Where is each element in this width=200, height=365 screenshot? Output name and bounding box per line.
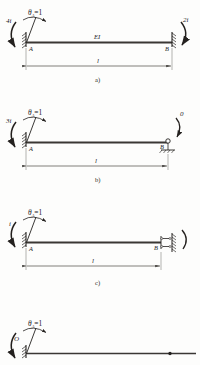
node-label-b-right: B: [160, 143, 164, 150]
caption-c: c): [95, 279, 100, 287]
node-label-a-right: B: [165, 45, 169, 52]
node-dot-d: [168, 352, 171, 355]
fixed-support-left-a: [22, 32, 26, 48]
span-label-c: l: [92, 257, 94, 265]
panel-c: [11, 217, 186, 270]
moment-arrow-right-a: [181, 22, 186, 45]
fixed-support-left-b: [22, 132, 26, 148]
right-moment-label-a: 2i: [183, 16, 189, 24]
caption-a: a): [95, 76, 100, 84]
structural-diagram-svg: θA=1 4i 2i A B EI l a) θA=1 3i 0 A B l b…: [0, 0, 200, 365]
span-label-a: l: [97, 57, 99, 65]
fixed-support-left-d: [22, 345, 26, 358]
guided-support-right-c: [161, 233, 176, 252]
fixed-support-left-c: [22, 232, 26, 248]
moment-arrow-left-a: [11, 22, 16, 47]
fixed-support-right-a: [172, 32, 176, 48]
node-label-c-right: B: [154, 244, 158, 251]
left-moment-label-d: O: [14, 335, 19, 343]
span-dimension-b: [26, 148, 168, 170]
panel-d: [11, 328, 196, 358]
figure-sheet: θA=1 4i 2i A B EI l a) θA=1 3i 0 A B l b…: [0, 0, 200, 365]
rotation-label-c: θA=1: [28, 208, 42, 218]
rotation-tangent-c: [27, 217, 37, 243]
node-label-b-left: A: [28, 145, 33, 152]
left-moment-label-b: 3i: [5, 117, 12, 125]
moment-arrow-right-c: [182, 230, 186, 249]
beam-stiffness-label-a: EI: [93, 33, 101, 40]
rotation-tangent-a: [27, 17, 37, 43]
rotation-label-d: θA=1: [28, 319, 42, 329]
left-moment-label-a: 4i: [6, 17, 12, 25]
left-moment-label-c: i: [9, 220, 11, 228]
rotation-tangent-b: [27, 117, 37, 143]
rotation-label-a: θA=1: [28, 8, 42, 18]
moment-arrow-left-b: [11, 122, 16, 147]
caption-b: b): [95, 176, 101, 184]
span-dimension-a: [26, 48, 172, 70]
right-moment-label-b: 0: [180, 110, 184, 118]
rotation-tangent-d: [27, 328, 37, 354]
rotation-label-b: θA=1: [28, 108, 42, 118]
node-label-c-left: A: [28, 245, 33, 252]
moment-arrow-right-b: [176, 118, 180, 137]
moment-arrow-left-c: [11, 222, 16, 247]
node-label-a-left: A: [28, 45, 33, 52]
span-label-b: l: [95, 157, 97, 165]
